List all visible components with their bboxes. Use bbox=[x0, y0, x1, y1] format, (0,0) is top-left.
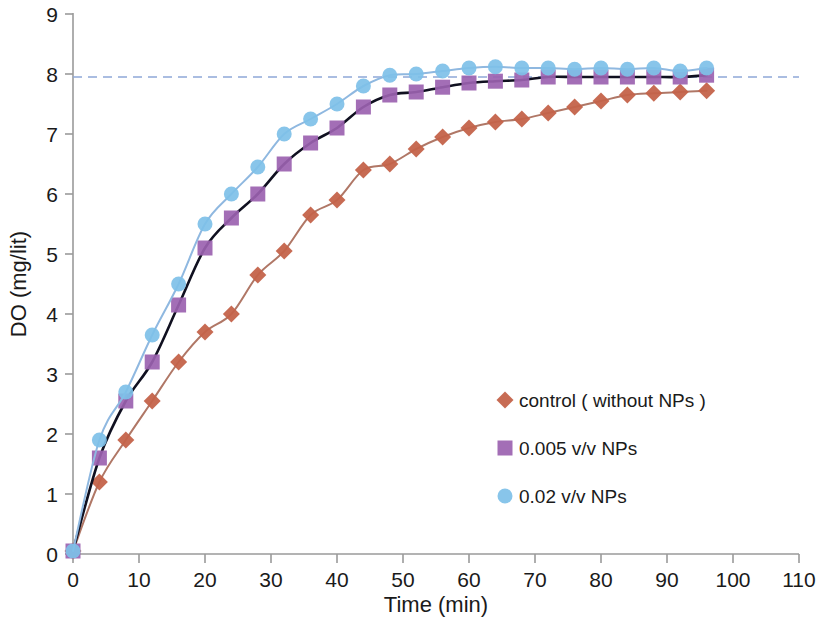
data-point-circle-marker bbox=[92, 433, 107, 448]
data-point-square-marker bbox=[277, 157, 292, 172]
data-point-diamond-marker bbox=[487, 114, 504, 131]
series-fit-line bbox=[73, 75, 707, 551]
x-axis-tick-label: 110 bbox=[782, 568, 815, 591]
series-group bbox=[66, 59, 715, 558]
data-point-diamond-marker bbox=[408, 141, 425, 158]
data-point-square-marker bbox=[145, 355, 160, 370]
data-point-diamond-marker bbox=[593, 93, 610, 110]
data-point-square-marker bbox=[171, 298, 186, 313]
data-point-circle-marker bbox=[118, 385, 133, 400]
data-point-diamond-marker bbox=[566, 99, 583, 116]
x-axis-tick-label: 100 bbox=[715, 568, 750, 591]
data-point-circle-marker bbox=[277, 127, 292, 142]
y-axis-tick-label: 7 bbox=[46, 123, 58, 146]
x-axis-tick-label: 80 bbox=[589, 568, 612, 591]
data-point-circle-marker bbox=[594, 61, 609, 76]
legend-item: control ( without NPs ) bbox=[497, 390, 706, 411]
data-point-diamond-marker bbox=[645, 85, 662, 102]
legend-item-label: 0.005 v/v NPs bbox=[519, 438, 637, 459]
data-point-square-marker bbox=[435, 80, 450, 95]
data-point-square-marker bbox=[382, 88, 397, 103]
data-point-diamond-marker bbox=[434, 129, 451, 146]
y-axis-tick-label: 8 bbox=[46, 63, 58, 86]
x-axis-tick-label: 70 bbox=[523, 568, 546, 591]
data-point-square-marker bbox=[330, 121, 345, 136]
data-point-circle-marker bbox=[541, 61, 556, 76]
data-point-diamond-marker bbox=[461, 120, 478, 137]
data-point-square-marker bbox=[462, 76, 477, 91]
x-axis-tick-label: 60 bbox=[457, 568, 480, 591]
data-point-circle-marker bbox=[250, 160, 265, 175]
y-axis-tick-label: 6 bbox=[46, 183, 58, 206]
legend-item-label: 0.02 v/v NPs bbox=[519, 486, 627, 507]
series-fit-line bbox=[73, 67, 707, 551]
x-axis-tick-label: 30 bbox=[259, 568, 282, 591]
y-axis-tick-label: 4 bbox=[46, 303, 58, 326]
y-axis-tick-label: 0 bbox=[46, 543, 58, 566]
y-axis-tick-label: 3 bbox=[46, 363, 58, 386]
data-point-square-marker bbox=[488, 74, 503, 89]
data-point-square-marker bbox=[498, 441, 513, 456]
data-point-circle-marker bbox=[514, 61, 529, 76]
data-point-circle-marker bbox=[382, 68, 397, 83]
x-axis-title: Time (min) bbox=[384, 592, 488, 617]
data-point-circle-marker bbox=[462, 61, 477, 76]
data-point-circle-marker bbox=[303, 112, 318, 127]
data-point-diamond-marker bbox=[497, 392, 514, 409]
data-point-circle-marker bbox=[620, 62, 635, 77]
y-axis-tick-label: 9 bbox=[46, 3, 58, 26]
data-point-circle-marker bbox=[567, 62, 582, 77]
data-point-circle-marker bbox=[673, 64, 688, 79]
data-point-circle-marker bbox=[356, 79, 371, 94]
data-point-diamond-marker bbox=[513, 111, 530, 128]
data-point-circle-marker bbox=[66, 544, 81, 559]
chart-container: 01234567890102030405060708090100110Time … bbox=[0, 0, 822, 624]
data-point-square-marker bbox=[250, 187, 265, 202]
data-point-diamond-marker bbox=[619, 87, 636, 104]
data-point-circle-marker bbox=[198, 217, 213, 232]
do-vs-time-scatter-chart: 01234567890102030405060708090100110Time … bbox=[0, 0, 822, 624]
data-point-circle-marker bbox=[435, 64, 450, 79]
data-point-circle-marker bbox=[646, 61, 661, 76]
data-point-circle-marker bbox=[171, 277, 186, 292]
data-point-diamond-marker bbox=[698, 82, 715, 99]
y-axis-tick-label: 1 bbox=[46, 483, 58, 506]
data-point-square-marker bbox=[303, 136, 318, 151]
data-point-circle-marker bbox=[498, 489, 513, 504]
data-point-diamond-marker bbox=[381, 156, 398, 173]
legend-item: 0.02 v/v NPs bbox=[498, 486, 627, 507]
data-point-diamond-marker bbox=[170, 354, 187, 371]
legend-item-label: control ( without NPs ) bbox=[519, 390, 706, 411]
data-point-square-marker bbox=[198, 241, 213, 256]
x-axis-tick-label: 10 bbox=[127, 568, 150, 591]
data-point-diamond-marker bbox=[540, 105, 557, 122]
x-axis-tick-label: 40 bbox=[325, 568, 348, 591]
data-point-diamond-marker bbox=[144, 393, 161, 410]
data-point-circle-marker bbox=[488, 59, 503, 74]
data-point-square-marker bbox=[224, 211, 239, 226]
data-point-square-marker bbox=[409, 85, 424, 100]
x-axis-tick-label: 90 bbox=[655, 568, 678, 591]
data-point-circle-marker bbox=[330, 97, 345, 112]
y-axis-tick-label: 5 bbox=[46, 243, 58, 266]
x-axis-tick-label: 50 bbox=[391, 568, 414, 591]
data-point-circle-marker bbox=[145, 328, 160, 343]
x-axis-tick-label: 0 bbox=[67, 568, 79, 591]
data-point-circle-marker bbox=[699, 61, 714, 76]
x-axis-tick-label: 20 bbox=[193, 568, 216, 591]
data-point-diamond-marker bbox=[117, 432, 134, 449]
y-axis-title: DO (mg/lit) bbox=[6, 231, 31, 337]
y-axis-tick-label: 2 bbox=[46, 423, 58, 446]
data-point-diamond-marker bbox=[672, 84, 689, 101]
legend-item: 0.005 v/v NPs bbox=[498, 438, 638, 459]
data-point-square-marker bbox=[356, 100, 371, 115]
data-point-circle-marker bbox=[409, 67, 424, 82]
data-point-circle-marker bbox=[224, 187, 239, 202]
